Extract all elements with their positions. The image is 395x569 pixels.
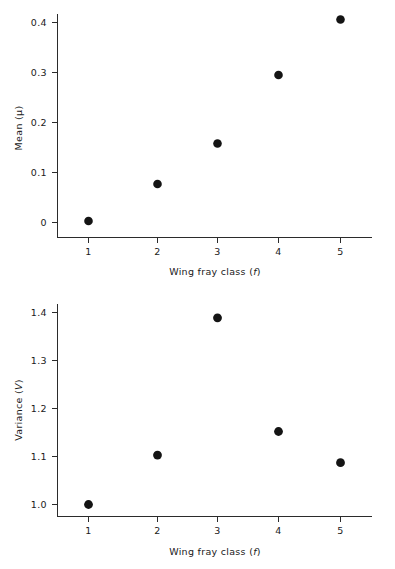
y-axis-title-close-variance: ) (13, 379, 24, 383)
y-tick-label-variance: 1.0 (31, 499, 47, 510)
y-tick-label-mean: 0.2 (31, 117, 47, 128)
y-tick-label-mean: 0.1 (31, 167, 47, 178)
data-point (213, 139, 222, 148)
x-ticks-mean: 1 2 3 4 5 (85, 238, 343, 258)
data-series-mean (84, 15, 345, 225)
plot-mean: 0.4 0.3 0.2 0.1 0 1 2 3 4 5 (0, 0, 395, 285)
plot-variance: 1.4 1.3 1.2 1.1 1.0 1 2 3 4 5 (0, 284, 395, 569)
x-tick-label-variance: 1 (85, 525, 91, 536)
data-point (336, 458, 345, 467)
x-tick-label-variance: 5 (337, 525, 343, 536)
y-tick-label-mean: 0.3 (31, 67, 47, 78)
y-axis-title-main-variance: Variance ( (13, 390, 24, 441)
x-tick-label-mean: 5 (337, 246, 343, 257)
x-axis-title-mean: Wing fray class (f) (169, 266, 261, 277)
x-tick-label-mean: 4 (275, 246, 281, 257)
data-point (213, 313, 222, 322)
x-axis-title-main-variance: Wing fray class ( (169, 546, 253, 557)
y-ticks-variance: 1.4 1.3 1.2 1.1 1.0 (31, 307, 58, 510)
data-point (153, 451, 162, 460)
x-tick-label-variance: 2 (154, 525, 160, 536)
x-tick-label-variance: 4 (275, 525, 281, 536)
y-ticks-mean: 0.4 0.3 0.2 0.1 0 (31, 17, 58, 228)
data-point (274, 427, 283, 436)
x-tick-label-mean: 3 (214, 246, 220, 257)
y-tick-label-mean: 0.4 (31, 17, 47, 28)
data-point (274, 71, 283, 80)
data-point (84, 217, 93, 226)
x-tick-label-mean: 2 (154, 246, 160, 257)
x-axis-title-close-mean: ) (257, 266, 261, 277)
panel-variance: 1.4 1.3 1.2 1.1 1.0 1 2 3 4 5 (0, 284, 395, 569)
y-tick-label-variance: 1.3 (31, 355, 47, 366)
x-axis-title-main-mean: Wing fray class ( (169, 266, 253, 277)
x-tick-label-mean: 1 (85, 246, 91, 257)
x-ticks-variance: 1 2 3 4 5 (85, 517, 343, 537)
data-point (84, 500, 93, 509)
data-point (336, 15, 345, 24)
x-tick-label-variance: 3 (214, 525, 220, 536)
data-point (153, 180, 162, 189)
data-series-variance (84, 313, 345, 509)
y-tick-label-variance: 1.2 (31, 403, 47, 414)
y-axis-title-variance: Variance (V) (13, 379, 24, 441)
y-tick-label-variance: 1.4 (31, 307, 47, 318)
panel-mean: 0.4 0.3 0.2 0.1 0 1 2 3 4 5 (0, 0, 395, 285)
y-tick-label-mean: 0 (41, 217, 47, 228)
x-axis-title-variance: Wing fray class (f) (169, 546, 261, 557)
y-tick-label-variance: 1.1 (31, 451, 47, 462)
x-axis-title-close-variance: ) (257, 546, 261, 557)
y-axis-title-mean: Mean (μ) (13, 106, 24, 151)
figure-two-panel-scatter: 0.4 0.3 0.2 0.1 0 1 2 3 4 5 (0, 0, 395, 569)
